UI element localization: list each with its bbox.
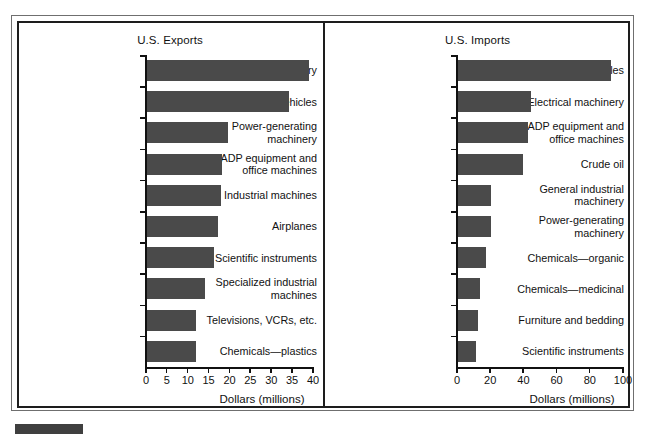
plot-area-exports: Electrical machineryVehiclesPower-genera… xyxy=(17,55,323,367)
category-label-imports-6: Chemicals—organic xyxy=(499,242,630,273)
category-label-line: Airplanes xyxy=(272,220,317,233)
category-label-line: machinery xyxy=(574,227,624,240)
x-tick-exports-0 xyxy=(145,367,147,373)
category-tick-imports-9 xyxy=(451,336,457,338)
bar-row-imports-2: ADP equipment andoffice machines xyxy=(325,117,630,148)
bar-row-imports-6: Chemicals—organic xyxy=(325,242,630,273)
category-label-line: machinery xyxy=(267,133,317,146)
bar-exports-3 xyxy=(147,154,222,175)
category-tick-exports-3 xyxy=(140,149,146,151)
category-label-line: office machines xyxy=(549,133,624,146)
bar-row-imports-0: Vehicles xyxy=(325,55,630,86)
x-axis-title-exports: Dollars (millions) xyxy=(220,393,305,405)
x-tick-exports-5 xyxy=(249,367,251,373)
bar-exports-2 xyxy=(147,122,228,143)
category-label-exports-9: Chemicals—plastics xyxy=(195,336,323,367)
x-tick-exports-8 xyxy=(312,367,314,373)
category-label-line: ADP equipment and xyxy=(221,152,317,165)
bar-exports-1 xyxy=(147,91,289,112)
bar-row-exports-5: Airplanes xyxy=(17,211,323,242)
x-tick-exports-1 xyxy=(166,367,168,373)
bar-row-exports-3: ADP equipment andoffice machines xyxy=(17,149,323,180)
bar-row-exports-2: Power-generatingmachinery xyxy=(17,117,323,148)
bar-exports-9 xyxy=(147,341,196,362)
x-tick-imports-0 xyxy=(456,367,458,373)
bar-row-imports-5: Power-generatingmachinery xyxy=(325,211,630,242)
x-tick-label-exports-8: 40 xyxy=(307,374,319,386)
bar-exports-0 xyxy=(147,60,309,81)
category-label-line: Specialized industrial xyxy=(216,276,317,289)
bar-imports-7 xyxy=(458,278,480,299)
bar-row-exports-9: Chemicals—plastics xyxy=(17,336,323,367)
category-label-line: Scientific instruments xyxy=(522,345,624,358)
category-label-line: Chemicals—organic xyxy=(527,252,624,265)
bar-imports-1 xyxy=(458,91,531,112)
chart-panel-imports: U.S. Imports VehiclesElectrical machiner… xyxy=(325,21,630,408)
bar-imports-6 xyxy=(458,247,486,268)
x-tick-label-imports-5: 100 xyxy=(614,374,632,386)
chart-title-imports: U.S. Imports xyxy=(325,34,630,46)
category-tick-imports-5 xyxy=(451,211,457,213)
figure-root: U.S. Exports Electrical machineryVehicle… xyxy=(0,0,648,442)
x-tick-imports-1 xyxy=(489,367,491,373)
x-tick-label-imports-4: 80 xyxy=(584,374,596,386)
category-label-line: Furniture and bedding xyxy=(518,314,624,327)
bar-imports-0 xyxy=(458,60,611,81)
bar-imports-9 xyxy=(458,341,476,362)
category-tick-exports-9 xyxy=(140,336,146,338)
bar-exports-7 xyxy=(147,278,205,299)
category-tick-exports-1 xyxy=(140,86,146,88)
category-label-line: ADP equipment and xyxy=(528,120,624,133)
category-tick-imports-1 xyxy=(451,86,457,88)
category-label-imports-5: Power-generatingmachinery xyxy=(499,211,630,242)
x-tick-label-exports-2: 10 xyxy=(182,374,194,386)
category-tick-imports-4 xyxy=(451,180,457,182)
bar-row-imports-3: Crude oil xyxy=(325,149,630,180)
category-label-line: Power-generating xyxy=(232,120,317,133)
category-label-line: Chemicals—medicinal xyxy=(517,283,624,296)
chart-title-exports: U.S. Exports xyxy=(17,34,323,46)
x-tick-exports-4 xyxy=(229,367,231,373)
bar-row-imports-7: Chemicals—medicinal xyxy=(325,273,630,304)
x-tick-exports-3 xyxy=(208,367,210,373)
category-label-exports-7: Specialized industrialmachines xyxy=(195,273,323,304)
x-tick-imports-2 xyxy=(522,367,524,373)
category-label-exports-8: Televisions, VCRs, etc. xyxy=(195,305,323,336)
x-tick-imports-3 xyxy=(556,367,558,373)
bar-row-imports-4: General industrialmachinery xyxy=(325,180,630,211)
bar-row-imports-9: Scientific instruments xyxy=(325,336,630,367)
x-tick-label-imports-3: 60 xyxy=(550,374,562,386)
bar-imports-2 xyxy=(458,122,528,143)
x-tick-label-imports-1: 20 xyxy=(484,374,496,386)
category-tick-imports-6 xyxy=(451,242,457,244)
category-label-line: Industrial machines xyxy=(224,189,317,202)
x-tick-label-imports-2: 40 xyxy=(517,374,529,386)
x-axis-exports: 0510152025303540Dollars (millions) xyxy=(17,367,323,407)
x-tick-label-exports-0: 0 xyxy=(143,374,149,386)
x-tick-label-exports-6: 30 xyxy=(265,374,277,386)
bar-imports-3 xyxy=(458,154,523,175)
category-label-imports-8: Furniture and bedding xyxy=(499,305,630,336)
category-tick-exports-5 xyxy=(140,211,146,213)
category-tick-exports-8 xyxy=(140,305,146,307)
x-tick-exports-6 xyxy=(270,367,272,373)
category-label-imports-7: Chemicals—medicinal xyxy=(499,273,630,304)
category-tick-imports-0 xyxy=(451,55,457,57)
category-tick-imports-8 xyxy=(451,305,457,307)
x-tick-exports-7 xyxy=(291,367,293,373)
category-label-line: Electrical machinery xyxy=(527,96,624,109)
category-label-line: Chemicals—plastics xyxy=(220,345,317,358)
category-label-line: machines xyxy=(271,289,317,302)
bar-row-exports-6: Scientific instruments xyxy=(17,242,323,273)
x-tick-label-exports-4: 20 xyxy=(223,374,235,386)
x-tick-imports-5 xyxy=(622,367,624,373)
bar-exports-6 xyxy=(147,247,214,268)
x-tick-exports-2 xyxy=(187,367,189,373)
category-label-line: machinery xyxy=(574,195,624,208)
x-axis-imports: 020406080100Dollars (millions) xyxy=(325,367,630,407)
x-tick-label-exports-5: 25 xyxy=(244,374,256,386)
bar-imports-5 xyxy=(458,216,491,237)
category-label-imports-4: General industrialmachinery xyxy=(499,180,630,211)
x-tick-label-exports-7: 35 xyxy=(286,374,298,386)
bar-row-exports-4: Industrial machines xyxy=(17,180,323,211)
